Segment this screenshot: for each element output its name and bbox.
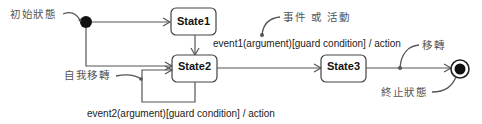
annotation-initial-state: 初始狀態	[10, 8, 56, 20]
callout-final-state	[432, 77, 456, 92]
transition-initial-to-state2	[86, 28, 172, 70]
event1-transition-label: event1(argument)[guard condition] / acti…	[213, 38, 401, 49]
callout-self-transition	[116, 75, 143, 81]
transition-initial-to-state1	[92, 18, 170, 26]
state2-label: State2	[178, 60, 211, 72]
transition-state2-to-state3	[217, 64, 321, 72]
state-diagram: State1 State2 State3 event1(argument)[gu…	[0, 0, 482, 124]
event2-transition-label: event2(argument)[guard condition] / acti…	[87, 108, 275, 119]
transition-state1-to-state2	[191, 35, 199, 55]
annotation-event-or-activity: 事件 或 活動	[283, 11, 350, 23]
state3-label: State3	[327, 60, 360, 72]
state1[interactable]: State1	[171, 8, 216, 35]
state2[interactable]: State2	[172, 55, 217, 82]
callout-event-or-activity	[260, 17, 280, 37]
annotation-self-transition: 自我移轉	[64, 69, 110, 81]
callout-initial-state	[63, 13, 82, 22]
final-state-node	[451, 60, 469, 78]
state1-label: State1	[177, 15, 210, 27]
initial-state-node	[80, 16, 92, 28]
annotation-final-state: 終止狀態	[381, 86, 427, 98]
transition-state3-to-final	[366, 64, 451, 72]
state3[interactable]: State3	[321, 55, 366, 82]
callout-transition	[398, 45, 419, 70]
annotation-transition: 移轉	[422, 39, 445, 51]
